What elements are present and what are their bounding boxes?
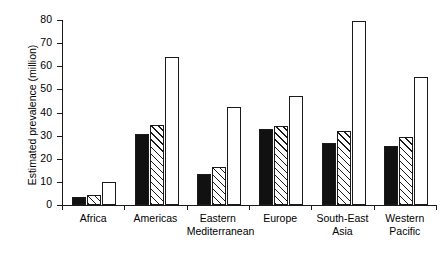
- bar: [165, 57, 179, 205]
- y-tick-mark: [57, 43, 62, 44]
- x-axis-label: EasternMediterranean: [187, 212, 249, 237]
- x-tick-mark: [374, 205, 375, 210]
- bar-group: [135, 20, 179, 205]
- bar: [322, 143, 336, 205]
- y-tick-mark: [57, 159, 62, 160]
- y-tick-label: 30: [40, 129, 52, 141]
- bar: [352, 21, 366, 205]
- y-axis-title: Estimated prevalence (million): [22, 15, 42, 215]
- bar-group: [197, 20, 241, 205]
- bar-group: [384, 20, 428, 205]
- x-tick-mark: [124, 205, 125, 210]
- bar: [72, 197, 86, 205]
- bar: [150, 125, 164, 205]
- x-tick-mark: [62, 205, 63, 210]
- y-tick-mark: [57, 136, 62, 137]
- y-tick-mark: [57, 182, 62, 183]
- bar: [259, 129, 273, 205]
- y-tick-label: 0: [46, 198, 52, 210]
- bar: [197, 174, 211, 205]
- y-tick-label: 60: [40, 59, 52, 71]
- bar-chart: Estimated prevalence (million) 010203040…: [0, 0, 444, 262]
- x-axis-label-line1: South-East: [317, 212, 369, 224]
- bar: [274, 126, 288, 205]
- x-axis-label: Americas: [124, 212, 186, 225]
- bar: [135, 134, 149, 205]
- y-tick-mark: [57, 113, 62, 114]
- bar: [399, 137, 413, 205]
- y-tick-label: 20: [40, 152, 52, 164]
- y-tick-mark: [57, 20, 62, 21]
- bar: [87, 195, 101, 205]
- x-axis-label: WesternPacific: [374, 212, 436, 237]
- bar: [384, 146, 398, 205]
- x-axis-label: Europe: [249, 212, 311, 225]
- x-axis-label-line2: Mediterranean: [187, 225, 249, 238]
- x-tick-mark: [187, 205, 188, 210]
- y-tick-label: 40: [40, 106, 52, 118]
- x-axis-label: South-EastAsia: [311, 212, 373, 237]
- x-axis-label-line2: Pacific: [374, 225, 436, 238]
- bar: [227, 107, 241, 205]
- bar-group: [72, 20, 116, 205]
- x-axis-label-line2: Asia: [311, 225, 373, 238]
- x-axis-label-line1: Western: [385, 212, 424, 224]
- y-tick-mark: [57, 89, 62, 90]
- y-tick-label: 50: [40, 82, 52, 94]
- bar: [414, 77, 428, 205]
- x-tick-mark: [436, 205, 437, 210]
- x-axis-label-line1: Africa: [80, 212, 107, 224]
- bar: [289, 96, 303, 205]
- x-axis-label-line1: Europe: [263, 212, 297, 224]
- x-tick-mark: [311, 205, 312, 210]
- x-axis-label-line1: Americas: [134, 212, 178, 224]
- x-tick-mark: [249, 205, 250, 210]
- y-tick-mark: [57, 66, 62, 67]
- bar: [212, 167, 226, 205]
- bar: [102, 182, 116, 205]
- bar-groups: [63, 20, 436, 205]
- x-axis-label: Africa: [62, 212, 124, 225]
- bar-group: [322, 20, 366, 205]
- bar-group: [259, 20, 303, 205]
- bar: [337, 131, 351, 205]
- plot-area: 01020304050607080 AfricaAmericasEasternM…: [62, 20, 436, 206]
- y-tick-label: 70: [40, 36, 52, 48]
- y-tick-label: 80: [40, 13, 52, 25]
- x-axis-label-line1: Eastern: [200, 212, 236, 224]
- y-tick-label: 10: [40, 175, 52, 187]
